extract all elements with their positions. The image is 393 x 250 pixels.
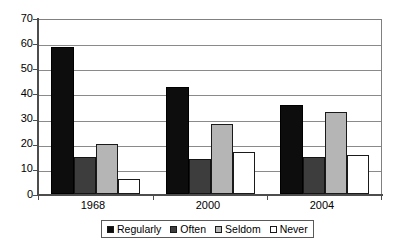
bar-2004-regularly — [280, 105, 303, 194]
bar-2004-never — [347, 155, 369, 194]
y-axis-labels: 70 60 50 40 30 20 10 0 — [0, 0, 33, 250]
legend-item-never: Never — [270, 224, 308, 235]
bar-1968-regularly — [51, 47, 74, 194]
y-axis-line — [37, 18, 39, 196]
bar-chart: 70 60 50 40 30 20 10 0 — [0, 0, 393, 250]
legend-label-seldom: Seldom — [225, 224, 261, 235]
bar-1968-seldom — [96, 144, 118, 194]
x-tick-end — [381, 194, 382, 200]
legend-item-regularly: Regularly — [107, 224, 161, 235]
y-tick-label-70: 70 — [3, 13, 33, 24]
legend-swatch-seldom-icon — [215, 226, 222, 233]
gridline-60 — [39, 45, 381, 46]
x-tick-start — [38, 194, 39, 200]
bar-2000-seldom — [211, 124, 233, 194]
y-tick-label-30: 30 — [3, 113, 33, 124]
bar-2004-often — [303, 157, 325, 194]
y-tick-label-50: 50 — [3, 63, 33, 74]
plot-area — [38, 19, 382, 195]
legend-label-regularly: Regularly — [117, 224, 161, 235]
bar-2000-regularly — [166, 87, 189, 194]
legend-item-seldom: Seldom — [215, 224, 261, 235]
x-tick-sep-2 — [267, 194, 268, 200]
x-axis-line — [37, 194, 383, 196]
y-tick-label-0: 0 — [3, 189, 33, 200]
x-category-label-2004: 2004 — [287, 199, 357, 211]
bar-1968-often — [74, 157, 96, 194]
bar-2004-seldom — [325, 112, 347, 194]
legend-swatch-often-icon — [170, 226, 177, 233]
bar-2000-often — [189, 159, 211, 194]
x-tick-sep-1 — [153, 194, 154, 200]
legend-swatch-never-icon — [270, 226, 277, 233]
x-category-label-1968: 1968 — [58, 199, 128, 211]
x-category-label-2000: 2000 — [173, 199, 243, 211]
bar-1968-never — [118, 179, 140, 194]
y-tick-label-20: 20 — [3, 138, 33, 149]
gridline-40 — [39, 95, 381, 96]
chart-legend: Regularly Often Seldom Never — [101, 220, 314, 238]
legend-label-often: Often — [180, 224, 206, 235]
y-tick-label-60: 60 — [3, 38, 33, 49]
legend-item-often: Often — [170, 224, 206, 235]
bar-2000-never — [233, 152, 255, 194]
legend-swatch-regularly-icon — [107, 226, 114, 233]
y-tick-label-10: 10 — [3, 163, 33, 174]
y-tick-label-40: 40 — [3, 88, 33, 99]
legend-label-never: Never — [280, 224, 308, 235]
gridline-50 — [39, 70, 381, 71]
